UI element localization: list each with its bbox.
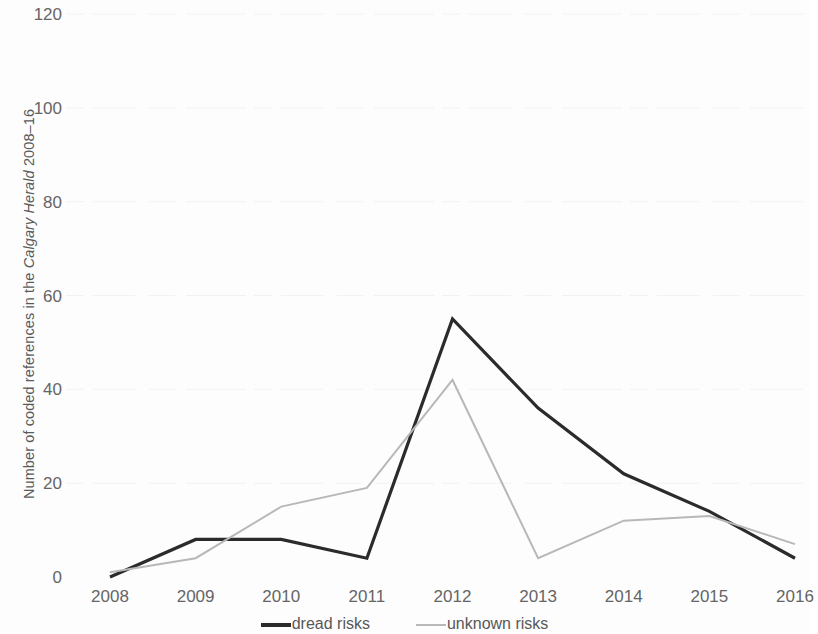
x-axis-tick-label: 2012 — [418, 586, 488, 607]
legend-label: dread risks — [292, 616, 370, 632]
plot-svg — [66, 6, 803, 584]
legend-entry: dread risks — [261, 616, 370, 632]
chart-legend: dread risksunknown risks — [0, 613, 809, 634]
x-axis-tick-label: 2010 — [246, 586, 316, 607]
x-axis-tick-label: 2013 — [503, 586, 573, 607]
series-line-dread-risks — [110, 319, 795, 577]
x-axis-tick-label: 2009 — [161, 586, 231, 607]
x-axis-tick-labels: 200820092010201120122013201420152016 — [66, 586, 803, 612]
y-axis-tick-label: 20 — [6, 475, 62, 492]
y-axis-tick-label: 60 — [6, 288, 62, 305]
x-axis-tick-label: 2016 — [760, 586, 818, 607]
x-axis-tick-label: 2011 — [332, 586, 402, 607]
x-axis-tick-label: 2014 — [589, 586, 659, 607]
series-line-unknown-risks — [110, 380, 795, 572]
x-axis-tick-label: 2008 — [75, 586, 145, 607]
plot-area — [66, 6, 803, 584]
gridlines — [66, 14, 803, 483]
legend-line-swatch-icon — [261, 623, 291, 627]
legend-line-swatch-icon — [416, 624, 446, 626]
legend-label: unknown risks — [447, 616, 548, 632]
y-axis-tick-labels: 020406080100120 — [0, 0, 62, 634]
series-lines — [110, 319, 795, 577]
y-axis-tick-label: 100 — [6, 100, 62, 117]
y-axis-tick-label: 120 — [6, 6, 62, 23]
y-axis-tick-label: 80 — [6, 194, 62, 211]
y-axis-tick-label: 40 — [6, 381, 62, 398]
y-axis-tick-label: 0 — [6, 569, 62, 586]
x-axis-tick-label: 2015 — [674, 586, 744, 607]
legend-entry: unknown risks — [416, 616, 548, 632]
